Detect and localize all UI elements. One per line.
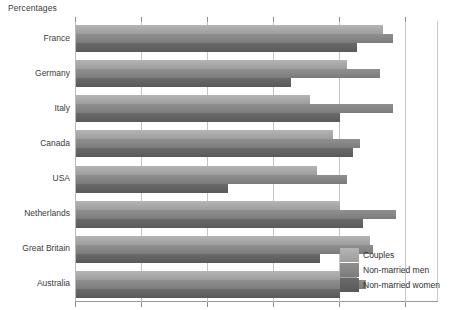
bar [76, 104, 393, 113]
bar [76, 148, 353, 157]
axis-tick-bottom [339, 302, 340, 307]
chart-title: Percentages [8, 3, 57, 13]
category-label-usa: USA [0, 173, 70, 183]
category-label-great-britain: Great Britain [0, 243, 70, 253]
legend-label-non-married-women: Non-married women [359, 280, 440, 290]
bar [76, 175, 347, 184]
axis-tick-top [273, 17, 274, 22]
legend-item-non-married-women: Non-married women [340, 278, 440, 292]
bar [76, 245, 373, 254]
legend-label-non-married-men: Non-married men [359, 265, 429, 275]
chart-container: Percentages FranceGermanyItalyCanadaUSAN… [0, 0, 453, 310]
legend-label-couples: Couples [359, 250, 394, 260]
legend-swatch-non-married-men [340, 263, 359, 277]
category-label-germany: Germany [0, 68, 70, 78]
chart-legend: Couples Non-married men Non-married wome… [340, 248, 452, 298]
category-label-italy: Italy [0, 103, 70, 113]
bar [76, 130, 333, 139]
axis-tick-bottom [141, 302, 142, 307]
bar [76, 289, 340, 298]
bar [76, 219, 363, 228]
axis-bottom [75, 301, 438, 302]
bar [76, 60, 347, 69]
legend-swatch-couples [340, 248, 359, 262]
legend-item-non-married-men: Non-married men [340, 263, 429, 277]
bar [76, 166, 317, 175]
axis-tick-bottom [405, 302, 406, 307]
axis-tick-bottom [273, 302, 274, 307]
bar [76, 69, 380, 78]
category-label-australia: Australia [0, 278, 70, 288]
axis-tick-top [405, 17, 406, 22]
axis-tick-top [339, 17, 340, 22]
bar [76, 43, 357, 52]
bar [76, 254, 320, 263]
axis-tick-top [75, 17, 76, 22]
bar [76, 210, 396, 219]
category-label-france: France [0, 33, 70, 43]
bar [76, 113, 340, 122]
bar [76, 271, 357, 280]
bar [76, 34, 393, 43]
axis-tick-bottom [75, 302, 76, 307]
bar [76, 25, 383, 34]
bar [76, 184, 228, 193]
bar [76, 139, 360, 148]
category-label-canada: Canada [0, 138, 70, 148]
bar [76, 201, 340, 210]
bar [76, 95, 310, 104]
legend-item-couples: Couples [340, 248, 394, 262]
bar [76, 78, 291, 87]
axis-tick-top [141, 17, 142, 22]
bar [76, 280, 366, 289]
legend-swatch-non-married-women [340, 278, 359, 292]
category-label-netherlands: Netherlands [0, 208, 70, 218]
axis-tick-bottom [207, 302, 208, 307]
axis-tick-top [207, 17, 208, 22]
bar [76, 236, 370, 245]
